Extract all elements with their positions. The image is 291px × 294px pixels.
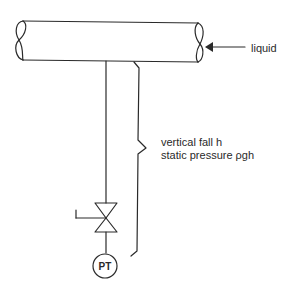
liquid-label: liquid — [251, 42, 277, 54]
diagram-canvas: liquid PT vertical fall h static pressur… — [0, 0, 291, 294]
flow-arrow — [205, 42, 245, 52]
vertical-fall-label: vertical fall h — [161, 136, 222, 148]
pipe — [16, 21, 203, 62]
pressure-transmitter: PT — [93, 254, 117, 278]
arrowhead-icon — [205, 42, 213, 52]
pt-label: PT — [99, 261, 112, 272]
valve-icon — [76, 203, 117, 232]
brace — [131, 62, 146, 256]
static-pressure-label: static pressure ρgh — [161, 149, 254, 161]
